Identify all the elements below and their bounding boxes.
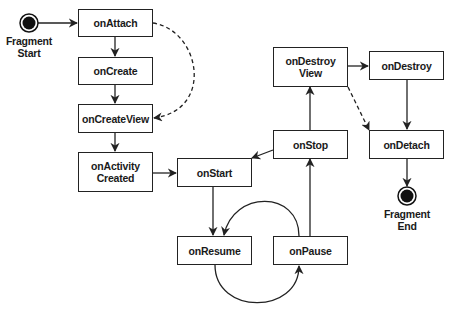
node-ondestroy-label: onDestroy [381,60,431,72]
node-onattach: onAttach [78,9,153,37]
node-ondetach-label: onDetach [383,139,429,151]
node-oncreateview: onCreateView [78,104,153,133]
node-ondestroyview-line2: View [299,67,322,79]
edge-onpause-onresume-arc [224,201,299,236]
end-label-line2: End [378,220,436,232]
node-oncreate: onCreate [78,57,153,85]
node-onstart-label: onStart [197,167,232,179]
node-onactivitycreated: onActivity Created [78,152,153,192]
node-onpause-label: onPause [289,245,331,257]
end-terminal-icon [398,187,416,205]
start-label: Fragment Start [0,35,58,59]
node-ondetach: onDetach [369,130,444,159]
edge-onattach-oncreateview-dashed [153,23,194,118]
node-onpause: onPause [273,236,348,265]
end-label-line1: Fragment [378,208,436,220]
node-onattach-label: onAttach [94,17,138,29]
node-onactivitycreated-line2: Created [97,172,135,184]
start-label-line2: Start [0,47,58,59]
node-ondestroy: onDestroy [369,51,444,80]
start-label-line1: Fragment [0,35,58,47]
start-terminal-icon [20,14,38,32]
end-label: Fragment End [378,208,436,232]
node-oncreate-label: onCreate [94,65,138,77]
edge-onresume-onpause-arc [215,265,299,303]
node-onstart: onStart [177,158,252,187]
edge-ondestroyview-ondetach-dashed [348,87,369,130]
node-onstop: onStop [273,130,348,159]
node-onresume-label: onResume [188,245,240,257]
node-onstop-label: onStop [293,139,328,151]
node-ondestroyview-line1: onDestroy [285,55,335,67]
node-onactivitycreated-line1: onActivity [91,160,140,172]
node-ondestroyview: onDestroy View [273,47,348,87]
node-onresume: onResume [177,236,252,265]
node-oncreateview-label: onCreateView [82,113,149,125]
edge-onstop-onstart [252,150,273,158]
